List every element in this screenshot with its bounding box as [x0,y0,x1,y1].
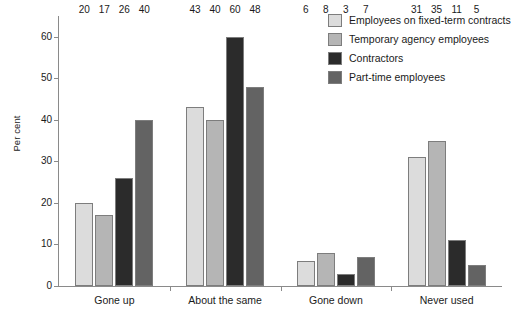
y-axis-tick-label: 60 [18,32,52,42]
bar-value-label: 40 [139,5,150,15]
bar[interactable]: 31 [408,157,426,286]
bar-column[interactable]: 6 [297,16,315,286]
legend-item[interactable]: Part-time employees [328,68,508,86]
bar[interactable]: 26 [115,178,133,286]
bar-value-label: 43 [190,5,201,15]
bar[interactable]: 40 [206,120,224,286]
legend-label: Contractors [349,53,403,64]
bar-value-label: 20 [79,5,90,15]
bar[interactable]: 43 [186,107,204,286]
bar[interactable]: 40 [135,120,153,286]
bar[interactable]: 8 [317,253,335,286]
legend: Employees on fixed-term contractsTempora… [328,11,508,87]
bar[interactable]: 5 [468,265,486,286]
bar[interactable]: 35 [428,141,446,286]
bar-value-label: 26 [119,5,130,15]
x-axis-category-label: About the same [188,294,262,306]
y-axis-tick-label: 30 [18,156,52,166]
legend-item[interactable]: Temporary agency employees [328,30,508,48]
bar-column[interactable]: 40 [206,16,224,286]
bar[interactable]: 11 [448,240,466,286]
y-axis-tick-label: 0 [18,281,52,291]
bar-column[interactable]: 60 [226,16,244,286]
bar[interactable]: 3 [337,274,355,286]
x-axis-category-label: Never used [420,294,474,306]
bar-column[interactable]: 48 [246,16,264,286]
bar-column[interactable]: 17 [95,16,113,286]
legend-swatch [328,33,342,46]
bar[interactable]: 60 [226,37,244,286]
y-axis-tick-label: 20 [18,198,52,208]
bar-value-label: 48 [250,5,261,15]
bar-value-label: 6 [303,5,309,15]
bar-group: 43406048 [170,16,281,286]
x-axis-tick-mark [281,286,282,291]
bar-column[interactable]: 43 [186,16,204,286]
bar-column[interactable]: 26 [115,16,133,286]
x-axis-category-label: Gone down [309,294,363,306]
legend-swatch [328,14,342,27]
x-axis-tick-mark [391,286,392,291]
legend-label: Temporary agency employees [349,34,489,45]
y-axis-tick-label: 40 [18,115,52,125]
legend-item[interactable]: Employees on fixed-term contracts [328,11,508,29]
x-axis-tick-mark [170,286,171,291]
y-axis-tick-label: 10 [18,239,52,249]
legend-label: Employees on fixed-term contracts [349,15,511,26]
bar[interactable]: 6 [297,261,315,286]
legend-swatch [328,71,342,84]
bar-column[interactable]: 40 [135,16,153,286]
bar-column[interactable]: 20 [75,16,93,286]
bar[interactable]: 17 [95,215,113,286]
legend-label: Part-time employees [349,72,445,83]
y-axis-tick-label: 50 [18,73,52,83]
bar[interactable]: 48 [246,87,264,286]
bar-value-label: 17 [99,5,110,15]
x-axis-category-label: Gone up [94,294,134,306]
legend-item[interactable]: Contractors [328,49,508,67]
bar[interactable]: 20 [75,203,93,286]
bar-value-label: 60 [230,5,241,15]
legend-swatch [328,52,342,65]
bar-value-label: 40 [210,5,221,15]
bar-group: 20172640 [59,16,170,286]
bar[interactable]: 7 [357,257,375,286]
